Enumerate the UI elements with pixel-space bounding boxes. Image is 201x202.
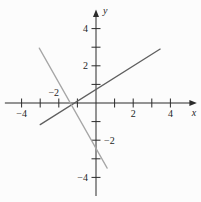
y-tick-label-2: 2 bbox=[83, 60, 88, 71]
x-tick-label--4: −4 bbox=[16, 108, 27, 119]
x-tick-label-4: 4 bbox=[168, 108, 173, 119]
x-tick-label-2: 2 bbox=[131, 108, 136, 119]
graph-figure: −4−22442−2−4xy bbox=[0, 0, 201, 202]
y-axis-label: y bbox=[102, 5, 108, 16]
y-tick-label--2: −2 bbox=[104, 135, 115, 146]
y-tick-label--4: −4 bbox=[77, 172, 88, 183]
x-tick-label--2: −2 bbox=[48, 87, 59, 98]
x-axis-label: x bbox=[191, 107, 197, 118]
coordinate-plane: −4−22442−2−4xy bbox=[0, 0, 201, 202]
y-tick-label-4: 4 bbox=[83, 23, 88, 34]
